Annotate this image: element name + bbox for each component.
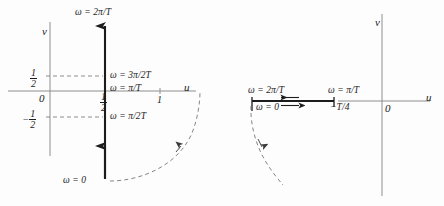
left-tick-label-v-half: 1 2: [30, 68, 37, 89]
left-origin-label: 0: [39, 93, 45, 104]
left-dashed-guides: [46, 76, 103, 117]
right-label-minus-T-over-4: −T/4: [330, 103, 349, 113]
left-label-omega-3pi-over-2T: ω = 3π/2T: [110, 71, 151, 81]
left-label-omega-pi-over-2T: ω = π/2T: [110, 112, 146, 122]
left-axis-label-u: u: [184, 82, 190, 93]
arc-direction-arrow-left: [176, 146, 181, 152]
right-label-omega-zero: ω = 0: [256, 103, 279, 113]
arc-path-right: [251, 106, 283, 185]
right-label-omega-2pi-over-T: ω = 2π/T: [248, 86, 284, 96]
left-tick-label-v-negative-half: − 1 2: [23, 109, 36, 130]
right-label-omega-pi-over-T: ω = π/T: [328, 86, 359, 96]
right-panel-axes: [338, 14, 430, 196]
left-label-omega-pi-over-T: ω = π/T: [110, 84, 141, 94]
left-label-omega-2pi-over-T: ω = 2π/T: [75, 8, 111, 18]
figure-container: ω = 2π/T v u 0 1 2 − 1 2 1 2 1 ω = 3π/2T…: [0, 0, 444, 206]
left-axis-label-v: v: [42, 26, 47, 37]
left-dashed-arc: [110, 91, 200, 181]
arc-direction-arrow-right: [258, 139, 262, 147]
right-axis-label-v: v: [375, 17, 380, 28]
left-tick-label-u-one: 1: [157, 95, 162, 105]
left-tick-label-u-half: 1 2: [100, 92, 107, 113]
v-neg-half-sign: −: [23, 115, 29, 125]
right-axis-label-u: u: [426, 92, 432, 103]
right-dashed-arc: [251, 106, 283, 185]
arc-path-left: [110, 91, 200, 181]
left-label-omega-zero: ω = 0: [63, 176, 86, 186]
right-origin-label: 0: [385, 103, 391, 114]
u-half-denominator: 2: [100, 103, 107, 113]
v-half-denominator: 2: [30, 79, 37, 89]
v-neg-half-denominator: 2: [29, 120, 36, 130]
